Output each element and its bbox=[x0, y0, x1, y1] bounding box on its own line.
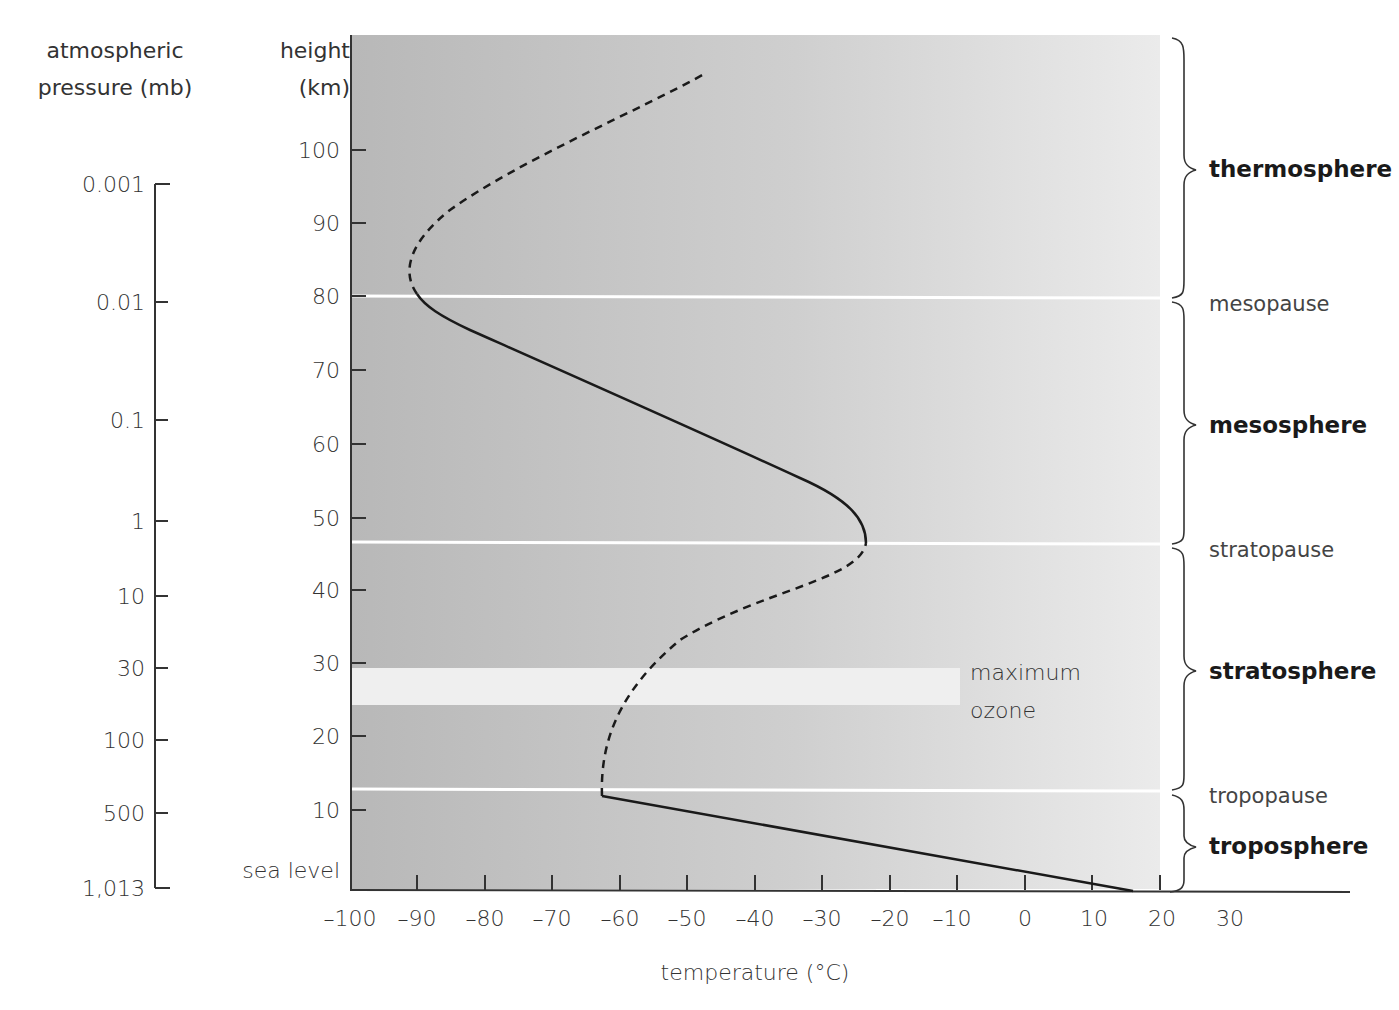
pressure-tick-label: 0.1 bbox=[40, 408, 145, 433]
layer-braces bbox=[1170, 38, 1196, 892]
height-tick-label: 80 bbox=[230, 284, 340, 309]
plot-background bbox=[351, 35, 1160, 889]
height-tick-label: 10 bbox=[230, 798, 340, 823]
mesopause-line bbox=[351, 296, 1160, 298]
pressure-tick-label: 30 bbox=[40, 656, 145, 681]
thermosphere-brace bbox=[1172, 38, 1196, 298]
tropopause-line bbox=[351, 789, 1160, 791]
height-tick-label: 40 bbox=[230, 578, 340, 603]
mesosphere-brace bbox=[1172, 302, 1196, 544]
temperature-axis-line bbox=[350, 890, 1350, 892]
layer-label-troposphere: troposphere bbox=[1209, 833, 1368, 859]
height-tick-label: 50 bbox=[230, 506, 340, 531]
troposphere-brace bbox=[1170, 795, 1196, 892]
layer-label-stratosphere: stratosphere bbox=[1209, 658, 1376, 684]
pressure-tick-label: 10 bbox=[40, 584, 145, 609]
ozone-label-line2: ozone bbox=[970, 698, 1036, 723]
height-tick-label: 30 bbox=[230, 651, 340, 676]
ozone-label-line1: maximum bbox=[970, 660, 1081, 685]
height-tick-label: 90 bbox=[230, 211, 340, 236]
boundary-label-stratopause: stratopause bbox=[1209, 538, 1334, 562]
layer-label-mesosphere: mesosphere bbox=[1209, 412, 1367, 438]
pressure-axis bbox=[155, 184, 170, 888]
pressure-tick-label: 1,013 bbox=[40, 876, 145, 901]
boundary-label-mesopause: mesopause bbox=[1209, 292, 1330, 316]
temperature-tick-label: 30 bbox=[1185, 906, 1275, 931]
pressure-tick-label: 0.01 bbox=[40, 290, 145, 315]
height-tick-label-sea-level: sea level bbox=[200, 858, 340, 883]
height-tick-label: 60 bbox=[230, 432, 340, 457]
stratosphere-brace bbox=[1172, 548, 1196, 790]
pressure-tick-label: 500 bbox=[40, 801, 145, 826]
ozone-band bbox=[351, 668, 960, 705]
pressure-tick-label: 0.001 bbox=[40, 172, 145, 197]
boundary-label-tropopause: tropopause bbox=[1209, 784, 1328, 808]
height-tick-label: 70 bbox=[230, 358, 340, 383]
stratopause-line bbox=[351, 542, 1160, 544]
temperature-axis-title: temperature (°C) bbox=[600, 960, 910, 985]
height-tick-label: 20 bbox=[230, 724, 340, 749]
pressure-tick-label: 100 bbox=[40, 728, 145, 753]
pressure-tick-label: 1 bbox=[40, 509, 145, 534]
layer-label-thermosphere: thermosphere bbox=[1209, 156, 1392, 182]
height-tick-label: 100 bbox=[230, 138, 340, 163]
